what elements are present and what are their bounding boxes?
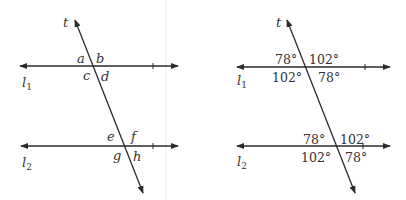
angle-c: c [83, 68, 91, 83]
angle-bottom-right: 78° [318, 70, 340, 85]
angle-bottom-right: 78° [345, 150, 367, 165]
angle-d: d [101, 69, 109, 84]
angle-bottom-left: 102° [272, 70, 302, 85]
angle-bottom-left: 102° [301, 150, 331, 165]
label-l1: l1 [237, 73, 247, 90]
angle-top-right: 102° [340, 132, 370, 147]
angle-top-left: 78° [275, 52, 297, 67]
transversal-t [287, 20, 355, 193]
angle-top-right: 102° [309, 52, 339, 67]
label-l2: l2 [22, 155, 32, 172]
angle-top-left: 78° [303, 132, 325, 147]
figure-letters: t l1 l2 a b c d e f g h [20, 15, 178, 193]
label-l2: l2 [237, 154, 247, 171]
transversal-t [75, 20, 143, 193]
angle-f: f [130, 129, 138, 144]
label-t: t [276, 15, 282, 30]
parallel-lines-diagram: t l1 l2 a b c d e f g h t l1 l2 78° 102°… [0, 0, 406, 200]
label-t: t [63, 15, 69, 30]
angle-a: a [77, 51, 85, 66]
figure-degrees: t l1 l2 78° 102° 102° 78° 78° 102° 102° … [237, 15, 390, 193]
angle-e: e [107, 129, 115, 144]
angle-b: b [96, 51, 104, 66]
angle-g: g [113, 148, 121, 163]
angle-h: h [133, 149, 141, 164]
label-l1: l1 [22, 75, 32, 92]
